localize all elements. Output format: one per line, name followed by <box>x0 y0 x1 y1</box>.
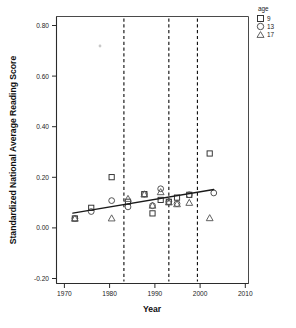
x-tick-label: 1970 <box>57 290 72 297</box>
legend-label: 9 <box>267 15 271 22</box>
legend-item-9[interactable]: 9 <box>258 15 272 22</box>
y-axis-ticks <box>52 26 57 279</box>
data-markers <box>71 151 216 222</box>
x-tick-label: 2010 <box>238 290 253 297</box>
data-point-age-9 <box>109 175 114 180</box>
x-tick-label: 1990 <box>148 290 163 297</box>
legend-title: age <box>258 5 269 13</box>
scatter-plot-canvas: 0.80 0.60 0.40 0.20 0.00 -0.20 1970 1980… <box>0 0 296 328</box>
y-tick-label: 0.60 <box>36 73 49 80</box>
y-tick-label: 0.80 <box>36 22 49 29</box>
x-tick-label: 1980 <box>102 290 117 297</box>
data-point-age-13 <box>211 190 217 196</box>
y-tick-label: -0.20 <box>34 275 49 282</box>
legend-item-13[interactable]: 13 <box>257 23 274 30</box>
y-tick-label: 0.00 <box>36 224 49 231</box>
y-tick-label: 0.20 <box>36 174 49 181</box>
y-axis-title: Standardized National Average Reading Sc… <box>8 56 18 245</box>
reference-lines <box>124 19 198 282</box>
data-point-age-9 <box>150 211 155 216</box>
plot-frame <box>57 17 249 284</box>
image-speck <box>99 45 102 48</box>
x-axis-tick-labels: 1970 1980 1990 2000 2010 <box>57 290 253 297</box>
data-point-age-17 <box>125 195 132 201</box>
legend: age 9 13 17 <box>257 5 275 38</box>
chart-figure: 0.80 0.60 0.40 0.20 0.00 -0.20 1970 1980… <box>0 0 296 328</box>
y-axis-tick-labels: 0.80 0.60 0.40 0.20 0.00 -0.20 <box>34 22 49 282</box>
x-axis-title: Year <box>143 304 162 314</box>
y-tick-label: 0.40 <box>36 123 49 130</box>
data-point-age-17 <box>108 215 115 221</box>
axis-spines <box>57 17 249 284</box>
legend-item-17[interactable]: 17 <box>257 31 275 38</box>
x-tick-label: 2000 <box>193 290 208 297</box>
data-point-age-9 <box>207 151 212 156</box>
data-point-age-17 <box>206 215 213 221</box>
legend-label: 17 <box>267 31 275 38</box>
legend-label: 13 <box>267 23 275 30</box>
x-axis-ticks <box>64 284 245 289</box>
data-point-age-17 <box>186 199 193 205</box>
data-point-age-13 <box>109 198 115 204</box>
